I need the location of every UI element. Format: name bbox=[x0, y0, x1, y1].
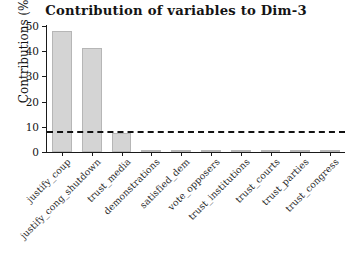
y-tick-label: 30 bbox=[26, 71, 39, 81]
bar bbox=[231, 150, 251, 152]
y-tick-label: 10 bbox=[26, 122, 39, 132]
chart-title: Contribution of variables to Dim-3 bbox=[0, 3, 352, 18]
bar bbox=[82, 48, 102, 152]
y-tick-label: 0 bbox=[32, 147, 39, 157]
x-tick-mark bbox=[62, 152, 63, 156]
chart-figure: Contribution of variables to Dim-3 Contr… bbox=[0, 0, 352, 264]
bar bbox=[261, 150, 281, 152]
y-tick-label: 20 bbox=[26, 97, 39, 107]
bar bbox=[171, 150, 191, 152]
bar bbox=[290, 150, 310, 152]
bar bbox=[201, 150, 221, 152]
x-tick-mark bbox=[151, 152, 152, 156]
x-tick-mark bbox=[122, 152, 123, 156]
bar bbox=[52, 31, 72, 152]
bar bbox=[112, 133, 132, 152]
x-tick-mark bbox=[241, 152, 242, 156]
x-tick-mark bbox=[330, 152, 331, 156]
x-tick-mark bbox=[300, 152, 301, 156]
y-tick-label: 40 bbox=[26, 46, 39, 56]
x-tick-mark bbox=[181, 152, 182, 156]
x-tick-label: trust_congress bbox=[283, 156, 341, 214]
x-tick-mark bbox=[271, 152, 272, 156]
bar bbox=[141, 150, 161, 152]
y-tick-mark bbox=[42, 152, 47, 153]
reference-line bbox=[47, 131, 345, 133]
x-tick-mark bbox=[211, 152, 212, 156]
y-tick-label: 50 bbox=[26, 21, 39, 31]
bar bbox=[320, 150, 340, 152]
x-tick-mark bbox=[92, 152, 93, 156]
plot-area bbox=[47, 26, 345, 152]
